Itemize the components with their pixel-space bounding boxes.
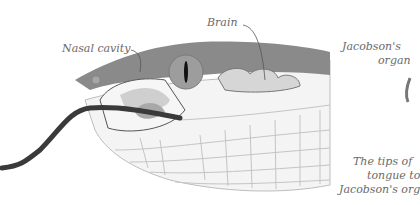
label-nasal-cavity: Nasal cavity — [62, 42, 131, 55]
label-jacobsons-organ-2: organ — [378, 54, 411, 67]
caption-line-2: tongue to — [367, 169, 420, 182]
label-jacobsons-organ-1: Jacobson's — [342, 40, 401, 53]
caption-line-3: Jacobson's org — [339, 183, 420, 196]
label-brain: Brain — [207, 16, 238, 29]
caption-line-1: The tips of — [353, 155, 412, 168]
